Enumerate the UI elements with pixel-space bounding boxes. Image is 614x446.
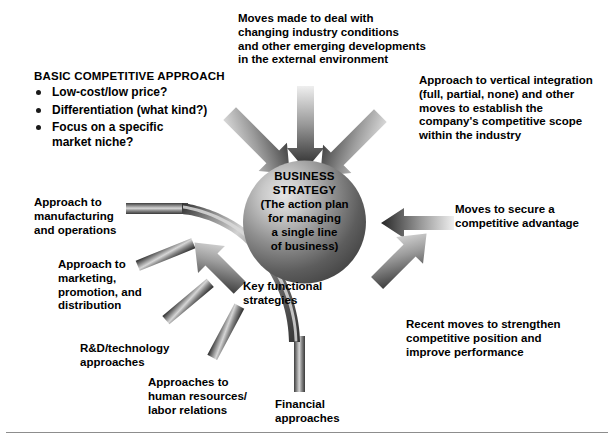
callout-top: Moves made to deal with changing industr… <box>238 12 453 67</box>
spoke-label-human-resources: Approaches to human resources/ labor rel… <box>148 376 288 417</box>
list-item: Differentiation (what kind?) <box>34 103 264 118</box>
arrow-top <box>287 86 324 170</box>
spoke-label-manufacturing: Approach to manufacturing and operations <box>34 196 154 237</box>
list-item: Low-cost/low price? <box>34 85 264 100</box>
bullet-icon <box>36 90 41 95</box>
basic-approach-heading: BASIC COMPETITIVE APPROACH <box>34 70 264 82</box>
sphere-heading-2: STRATEGY <box>243 184 366 198</box>
sphere-subtext: (The action plan for managing a single l… <box>243 198 366 253</box>
sphere-heading-1: BUSINESS <box>243 170 366 184</box>
list-item-label: Low-cost/low price? <box>52 85 167 99</box>
spoke-financial <box>294 336 305 392</box>
callout-upper-right: Approach to vertical integration (full, … <box>419 74 614 143</box>
callout-right: Moves to secure a competitive advantage <box>455 203 610 231</box>
spoke-label-rd: R&D/technology approaches <box>80 342 215 370</box>
bullet-icon <box>36 108 41 113</box>
basic-competitive-approach: BASIC COMPETITIVE APPROACH Low-cost/low … <box>34 70 264 153</box>
list-item: Focus on a specific market niche? <box>34 120 264 149</box>
callout-key-functional: Key functional strategies <box>243 280 373 308</box>
basic-approach-list: Low-cost/low price? Differentiation (wha… <box>34 85 264 150</box>
arrow-right <box>381 208 454 238</box>
list-item-label: Focus on a specific market niche? <box>52 120 163 149</box>
sphere-caption: BUSINESS STRATEGY (The action plan for m… <box>243 170 366 253</box>
spoke-label-financial: Financial approaches <box>275 398 395 426</box>
bottom-divider <box>6 432 608 433</box>
list-item-label: Differentiation (what kind?) <box>52 103 207 117</box>
callout-lower-right: Recent moves to strengthen competitive p… <box>406 318 606 359</box>
spoke-label-marketing: Approach to marketing, promotion, and di… <box>58 258 183 313</box>
bullet-icon <box>36 125 41 130</box>
